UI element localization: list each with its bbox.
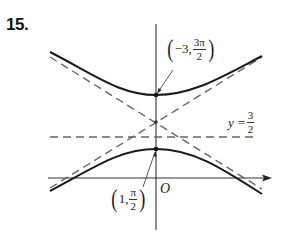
close-paren: ) (139, 186, 145, 212)
denominator: 2 (197, 50, 203, 62)
close-paren: ) (208, 36, 214, 62)
y-coordinate-fraction: π 2 (129, 187, 137, 212)
equation-fraction: 3 2 (247, 110, 255, 135)
open-paren: ( (111, 186, 117, 212)
lower-vertex-label: ( 1, π 2 ) (110, 186, 147, 212)
denominator: 2 (248, 123, 254, 135)
origin-label: O (160, 181, 170, 197)
denominator: 2 (130, 200, 136, 212)
upper-vertex-leader (158, 70, 173, 92)
upper-leader-arrow-icon (157, 88, 162, 94)
numerator: 3π (193, 37, 206, 50)
numerator: π (129, 187, 137, 200)
asymptote-intersection-point (154, 120, 158, 124)
x-coordinate: −3, (175, 41, 192, 57)
asymptote-equation-label: y = 3 2 (228, 110, 255, 135)
x-coordinate: 1, (119, 191, 129, 207)
y-coordinate-fraction: 3π 2 (193, 37, 206, 62)
open-paren: ( (167, 36, 173, 62)
lower-vertex-point (154, 147, 159, 152)
equation-lhs: y = (228, 115, 246, 131)
numerator: 3 (247, 110, 255, 123)
lower-vertex-leader (143, 152, 155, 187)
upper-vertex-label: ( −3, 3π 2 ) (166, 36, 216, 62)
